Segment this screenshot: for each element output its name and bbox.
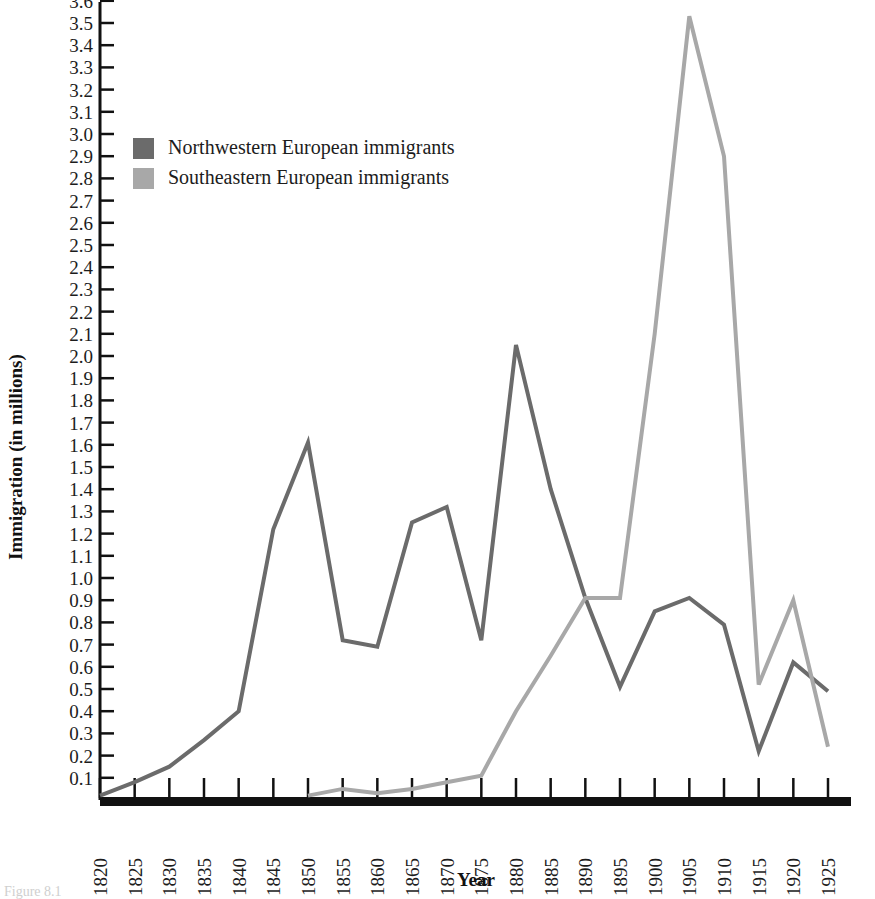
y-axis-tick-label: 1.5	[69, 457, 93, 478]
y-axis-tick-label: 2.9	[69, 146, 93, 167]
x-axis-line	[100, 797, 851, 806]
y-axis-tick-labels: 0.10.20.30.40.50.60.70.80.91.01.11.21.31…	[69, 0, 93, 789]
x-axis-tick-label: 1830	[159, 858, 180, 896]
y-axis-tick-label: 1.9	[69, 368, 93, 389]
y-axis-tick-label: 1.4	[69, 479, 93, 500]
y-axis-tick-label: 0.2	[69, 746, 93, 767]
y-axis-tick-label: 1.2	[69, 524, 93, 545]
y-axis-tick-label: 0.9	[69, 590, 93, 611]
y-axis-tick-label: 1.6	[69, 435, 93, 456]
y-axis-ticks	[100, 0, 114, 778]
y-axis-tick-label: 1.1	[69, 546, 93, 567]
y-axis-tick-label: 2.5	[69, 235, 93, 256]
x-axis-tick-label: 1910	[714, 858, 735, 896]
x-axis-tick-label: 1820	[90, 858, 111, 896]
x-axis-tick-label: 1885	[541, 858, 562, 896]
legend-label: Northwestern European immigrants	[168, 136, 455, 159]
x-axis-ticks	[100, 778, 828, 798]
chart-legend: Northwestern European immigrantsSoutheas…	[133, 136, 455, 189]
x-axis-tick-label: 1920	[783, 858, 804, 896]
chart-canvas: 0.10.20.30.40.50.60.70.80.91.01.11.21.31…	[0, 0, 875, 899]
y-axis-title: Immigration (in millions)	[5, 354, 27, 560]
y-axis-tick-label: 0.3	[69, 723, 93, 744]
y-axis-tick-label: 0.5	[69, 679, 93, 700]
x-axis-tick-label: 1855	[333, 858, 354, 896]
y-axis-tick-label: 2.0	[69, 346, 93, 367]
x-axis-tick-label: 1860	[367, 858, 388, 896]
y-axis-tick-label: 2.8	[69, 168, 93, 189]
y-axis-tick-label: 3.0	[69, 124, 93, 145]
y-axis-tick-label: 3.4	[69, 35, 93, 56]
series-line-southeastern	[308, 16, 828, 795]
x-axis-tick-label: 1890	[575, 858, 596, 896]
legend-label: Southeastern European immigrants	[168, 166, 449, 189]
x-axis-tick-label: 1905	[679, 858, 700, 896]
x-axis-tick-label: 1840	[229, 858, 250, 896]
y-axis-tick-label: 1.7	[69, 413, 93, 434]
x-axis-tick-label: 1900	[645, 858, 666, 896]
y-axis-tick-label: 0.4	[69, 701, 93, 722]
y-axis-tick-label: 2.7	[69, 191, 93, 212]
x-axis-tick-label: 1825	[125, 858, 146, 896]
figure-caption: Figure 8.1	[4, 884, 62, 899]
x-axis-tick-label: 1880	[506, 858, 527, 896]
y-axis-tick-label: 2.3	[69, 279, 93, 300]
y-axis-tick-label: 0.7	[69, 635, 93, 656]
y-axis-tick-label: 1.8	[69, 390, 93, 411]
y-axis-tick-label: 0.8	[69, 612, 93, 633]
x-axis-tick-label: 1850	[298, 858, 319, 896]
x-axis-tick-label: 1925	[818, 858, 839, 896]
x-axis-title: Year	[457, 869, 496, 890]
x-axis-tick-label: 1865	[402, 858, 423, 896]
x-axis-tick-label: 1870	[437, 858, 458, 896]
y-axis-tick-label: 2.1	[69, 324, 93, 345]
y-axis-tick-label: 2.4	[69, 257, 93, 278]
x-axis-tick-label: 1915	[749, 858, 770, 896]
immigration-line-chart: 0.10.20.30.40.50.60.70.80.91.01.11.21.31…	[0, 0, 875, 899]
x-axis-tick-label: 1845	[263, 858, 284, 896]
y-axis-tick-label: 1.0	[69, 568, 93, 589]
y-axis-tick-label: 0.1	[69, 768, 93, 789]
legend-swatch	[133, 138, 154, 159]
y-axis-tick-label: 3.5	[69, 13, 93, 34]
y-axis-tick-label: 0.6	[69, 657, 93, 678]
x-axis-tick-label: 1895	[610, 858, 631, 896]
y-axis-tick-label: 3.2	[69, 80, 93, 101]
y-axis-tick-label: 1.3	[69, 501, 93, 522]
y-axis-tick-label: 3.6	[69, 0, 93, 12]
x-axis-tick-label: 1835	[194, 858, 215, 896]
y-axis-tick-label: 2.6	[69, 213, 93, 234]
y-axis-tick-label: 2.2	[69, 302, 93, 323]
series-line-northwestern	[100, 345, 828, 796]
y-axis-tick-label: 3.3	[69, 57, 93, 78]
y-axis-tick-label: 3.1	[69, 102, 93, 123]
legend-swatch	[133, 168, 154, 189]
series-lines	[100, 16, 828, 795]
